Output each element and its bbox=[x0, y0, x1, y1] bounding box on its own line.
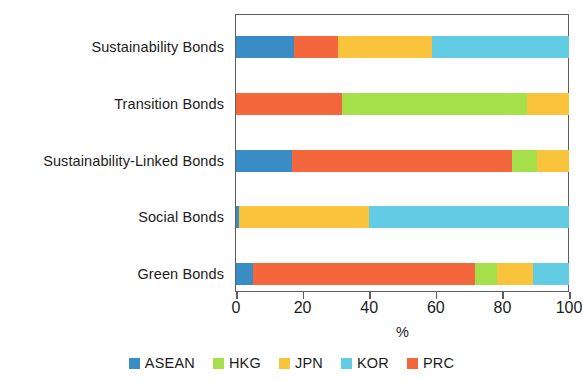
legend-item-kor[interactable]: KOR bbox=[341, 355, 389, 371]
bar-2 bbox=[236, 93, 569, 115]
legend-label: HKG bbox=[229, 355, 261, 371]
bar-segment-prc bbox=[294, 36, 337, 58]
bar-segment-kor bbox=[432, 36, 569, 58]
x-axis-title: % bbox=[236, 324, 569, 340]
y-axis-label: Sustainability Bonds bbox=[91, 39, 224, 55]
y-axis-category-labels: Sustainability BondsTransition BondsSust… bbox=[0, 0, 230, 300]
bar-1 bbox=[236, 36, 569, 58]
legend-label: PRC bbox=[423, 355, 454, 371]
legend-item-jpn[interactable]: JPN bbox=[279, 355, 323, 371]
legend-item-hkg[interactable]: HKG bbox=[213, 355, 261, 371]
bar-segment-jpn bbox=[338, 36, 433, 58]
legend-item-prc[interactable]: PRC bbox=[407, 355, 454, 371]
bar-segment-asean bbox=[236, 263, 253, 285]
legend-swatch-icon bbox=[279, 358, 290, 369]
legend-item-asean[interactable]: ASEAN bbox=[129, 355, 195, 371]
x-tick-label: 60 bbox=[427, 299, 445, 317]
bar-5 bbox=[236, 263, 569, 285]
x-tick-label: 40 bbox=[360, 299, 378, 317]
y-axis-label: Transition Bonds bbox=[114, 96, 224, 112]
x-tick-mark bbox=[436, 292, 438, 299]
x-tick-mark bbox=[569, 292, 571, 299]
bar-3 bbox=[236, 150, 569, 172]
legend-swatch-icon bbox=[213, 358, 224, 369]
chart-legend: ASEANHKGJPNKORPRC bbox=[0, 355, 583, 371]
legend-swatch-icon bbox=[129, 358, 140, 369]
bar-segment-jpn bbox=[497, 263, 533, 285]
x-tick-mark bbox=[369, 292, 371, 299]
x-tick-label: 20 bbox=[294, 299, 312, 317]
x-tick-label: 80 bbox=[493, 299, 511, 317]
stacked-bar-chart: Sustainability BondsTransition BondsSust… bbox=[0, 0, 583, 381]
x-tick-mark bbox=[303, 292, 305, 299]
legend-label: ASEAN bbox=[145, 355, 195, 371]
bar-segment-kor bbox=[533, 263, 569, 285]
y-axis-label: Green Bonds bbox=[137, 266, 224, 282]
y-axis-label: Social Bonds bbox=[138, 209, 224, 225]
x-tick-mark bbox=[502, 292, 504, 299]
bar-segment-prc bbox=[292, 150, 512, 172]
bar-segment-prc bbox=[236, 93, 342, 115]
x-tick-label: 0 bbox=[232, 299, 241, 317]
bar-segment-prc bbox=[253, 263, 475, 285]
bar-segment-kor bbox=[369, 206, 569, 228]
bar-segment-jpn bbox=[239, 206, 369, 228]
bar-segment-jpn bbox=[527, 93, 569, 115]
bar-segment-asean bbox=[236, 36, 294, 58]
y-axis-label: Sustainability-Linked Bonds bbox=[43, 153, 224, 169]
legend-label: KOR bbox=[357, 355, 389, 371]
plot-area bbox=[236, 15, 569, 291]
bar-segment-hkg bbox=[475, 263, 497, 285]
legend-swatch-icon bbox=[341, 358, 352, 369]
x-axis-tick-labels: 020406080100 bbox=[0, 299, 583, 323]
x-tick-label: 100 bbox=[556, 299, 583, 317]
x-tick-mark bbox=[236, 292, 238, 299]
bar-segment-hkg bbox=[512, 150, 537, 172]
bar-segment-hkg bbox=[342, 93, 527, 115]
bar-segment-jpn bbox=[537, 150, 569, 172]
bar-segment-asean bbox=[236, 150, 292, 172]
legend-swatch-icon bbox=[407, 358, 418, 369]
bar-4 bbox=[236, 206, 569, 228]
legend-label: JPN bbox=[295, 355, 323, 371]
